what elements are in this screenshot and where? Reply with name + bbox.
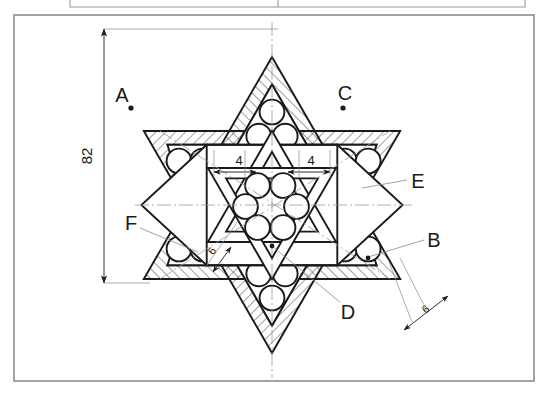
callout-label-e: E	[411, 170, 424, 192]
point-marker-b	[366, 256, 371, 261]
point-marker-d	[270, 244, 275, 249]
drawing-page: { "drawing": { "title": "Hexagram sphere…	[0, 0, 545, 394]
callout-label-f: F	[125, 212, 137, 234]
dimension-value-82: 82	[78, 148, 95, 165]
point-marker-c	[340, 105, 345, 110]
dimension-value-6-outer: 6	[419, 302, 431, 315]
dimension-6-outer: 6	[389, 258, 448, 330]
technical-drawing: 82 4 4 6 6	[0, 0, 545, 394]
callout-label-a: A	[115, 84, 129, 106]
callout-label-d: D	[341, 301, 355, 323]
callout-label-c: C	[338, 82, 352, 104]
point-marker-a	[128, 105, 133, 110]
callout-c: C	[338, 82, 352, 111]
dimension-value-4-left: 4	[235, 153, 242, 168]
dimension-value-4-right: 4	[307, 153, 314, 168]
callout-a: A	[115, 84, 133, 111]
callout-label-b: B	[427, 229, 440, 251]
